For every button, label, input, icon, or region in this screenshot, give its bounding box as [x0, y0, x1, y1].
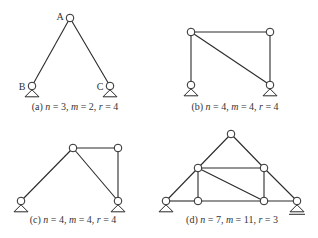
- truss-member: [73, 148, 118, 201]
- truss-joint: [114, 144, 122, 152]
- pin-support-icon: [14, 205, 28, 212]
- truss-panel-b: [184, 28, 277, 96]
- truss-member: [191, 32, 270, 85]
- joint-label: B: [19, 81, 26, 92]
- truss-member: [231, 134, 264, 168]
- truss-joint: [293, 197, 301, 205]
- truss-joint: [227, 130, 235, 138]
- truss-joint: [194, 197, 202, 205]
- joint-label: C: [97, 81, 104, 92]
- joint-label: A: [56, 11, 64, 22]
- truss-joint: [260, 164, 268, 172]
- truss-joint: [187, 81, 195, 89]
- truss-joint: [260, 197, 268, 205]
- truss-panel-c: [14, 144, 125, 212]
- roller-support-icon: [290, 205, 304, 212]
- truss-joint: [28, 82, 36, 90]
- truss-joint: [194, 164, 202, 172]
- pin-support-icon: [111, 205, 125, 212]
- truss-panel-d: [159, 130, 305, 214]
- truss-joint: [266, 81, 274, 89]
- pin-support-icon: [25, 90, 39, 97]
- truss-member: [21, 148, 73, 201]
- truss-panel-a: ABC: [19, 11, 117, 97]
- truss-joint: [17, 197, 25, 205]
- truss-figure: ABC: [0, 0, 318, 238]
- truss-joint: [114, 197, 122, 205]
- truss-member: [70, 18, 110, 86]
- truss-member: [32, 18, 70, 86]
- caption-a: (a) n = 3, m = 2, r = 4: [32, 101, 119, 112]
- pin-support-icon: [263, 89, 277, 96]
- caption-d: (d) n = 7, m = 11, r = 3: [186, 214, 278, 225]
- caption-c: (c) n = 4, m = 4, r = 4: [30, 214, 117, 225]
- truss-joint: [162, 197, 170, 205]
- truss-member: [166, 168, 198, 201]
- truss-member: [198, 134, 231, 168]
- truss-joint: [187, 28, 195, 36]
- truss-joint: [266, 28, 274, 36]
- pin-support-icon: [103, 90, 117, 97]
- truss-member: [264, 168, 297, 201]
- truss-member: [198, 168, 264, 201]
- pin-support-icon: [184, 89, 198, 96]
- truss-joint: [106, 82, 114, 90]
- pin-support-icon: [159, 205, 173, 212]
- caption-b: (b) n = 4, m = 4, r = 4: [191, 101, 278, 112]
- truss-joint: [69, 144, 77, 152]
- truss-joint: [66, 14, 74, 22]
